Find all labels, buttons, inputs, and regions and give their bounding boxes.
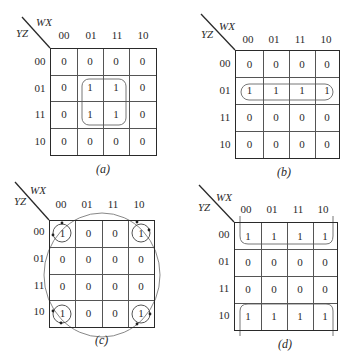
cell: 0 [263, 58, 289, 70]
cell: 0 [77, 55, 103, 67]
column-label: 10 [130, 198, 148, 210]
row-label: 01 [32, 82, 48, 94]
cell: 0 [313, 283, 337, 295]
row-variables-label: YZ [198, 201, 210, 213]
cell: 0 [50, 280, 75, 292]
caption: (a) [96, 162, 110, 177]
row-label: 10 [216, 309, 232, 321]
row-label: 11 [216, 282, 232, 294]
kmap-d: WX YZ 00 01 11 10 00 01 11 10 1 1 1 1 0 … [176, 178, 352, 357]
column-variables-label: WX [36, 16, 52, 28]
cell: 0 [50, 253, 75, 265]
cell: 1 [235, 310, 261, 322]
column-label: 00 [239, 33, 257, 45]
cell: 0 [263, 138, 289, 150]
cell: 0 [128, 253, 154, 265]
row-label: 01 [217, 84, 233, 96]
row-label: 00 [217, 57, 233, 69]
cell: 1 [287, 230, 313, 242]
cell: 1 [263, 84, 289, 96]
column-label: 01 [265, 33, 283, 45]
cell: 0 [75, 280, 102, 292]
row-label: 10 [32, 135, 48, 147]
cell: 0 [313, 256, 337, 268]
kmap-grid: 1 0 0 1 0 0 0 0 0 0 0 0 1 0 0 1 [49, 220, 155, 328]
row-label: 11 [32, 108, 48, 120]
column-label: 01 [78, 198, 96, 210]
cell: 0 [289, 111, 315, 123]
cell: 1 [128, 227, 154, 239]
cell: 0 [129, 81, 156, 93]
cell: 1 [287, 310, 313, 322]
cell: 0 [75, 253, 102, 265]
row-label: 11 [217, 111, 233, 123]
kmap-b: WX YZ 00 01 11 10 00 01 11 10 0 0 0 0 1 … [176, 0, 352, 178]
cell: 0 [51, 55, 77, 67]
cell: 1 [77, 108, 103, 120]
row-label: 10 [217, 138, 233, 150]
cell: 1 [315, 84, 339, 96]
cell: 0 [51, 135, 77, 147]
column-label: 01 [82, 29, 100, 41]
caption: (d) [278, 337, 292, 352]
cell: 0 [236, 138, 263, 150]
cell: 0 [236, 58, 263, 70]
cell: 0 [129, 108, 156, 120]
cell: 0 [235, 283, 261, 295]
column-variables-label: WX [219, 20, 235, 32]
cell: 0 [263, 111, 289, 123]
cell: 0 [315, 58, 339, 70]
cell: 0 [287, 256, 313, 268]
cell: 0 [289, 138, 315, 150]
caption: (c) [95, 333, 108, 348]
row-label: 00 [31, 225, 47, 237]
kmap-grid: 1 1 1 1 0 0 0 0 0 0 0 0 1 1 1 1 [234, 222, 338, 331]
row-label: 01 [31, 252, 47, 264]
cell: 0 [315, 111, 339, 123]
cell: 0 [235, 256, 261, 268]
cell: 1 [103, 108, 129, 120]
cell: 1 [236, 84, 263, 96]
row-label: 00 [32, 55, 48, 67]
cell: 0 [261, 256, 287, 268]
cell: 1 [77, 81, 103, 93]
cell: 1 [50, 227, 75, 239]
column-label: 10 [317, 33, 335, 45]
cell: 0 [102, 307, 128, 319]
column-label: 10 [314, 203, 332, 215]
cell: 0 [289, 58, 315, 70]
row-label: 11 [31, 279, 47, 291]
cell: 0 [129, 135, 156, 147]
cell: 0 [287, 283, 313, 295]
cell: 0 [103, 135, 129, 147]
cell: 0 [128, 280, 154, 292]
cell: 0 [103, 55, 129, 67]
cell: 1 [313, 310, 337, 322]
row-variables-label: YZ [16, 27, 28, 39]
cell: 0 [261, 283, 287, 295]
column-label: 10 [134, 29, 152, 41]
row-label: 00 [216, 228, 232, 240]
cell: 1 [235, 230, 261, 242]
column-variables-label: WX [216, 191, 232, 203]
cell: 0 [51, 108, 77, 120]
column-label: 11 [289, 203, 307, 215]
cell: 0 [102, 227, 128, 239]
cell: 0 [129, 55, 156, 67]
row-label: 10 [31, 305, 47, 317]
column-label: 01 [263, 203, 281, 215]
kmap-a: WX YZ 00 01 11 10 00 01 11 10 0 0 0 0 0 … [0, 0, 176, 178]
column-label: 00 [52, 198, 70, 210]
column-label: 00 [55, 29, 73, 41]
cell: 1 [128, 307, 154, 319]
cell: 1 [50, 307, 75, 319]
cell: 1 [261, 230, 287, 242]
cell: 1 [289, 84, 315, 96]
cell: 1 [261, 310, 287, 322]
column-label: 11 [291, 33, 309, 45]
row-variables-label: YZ [14, 195, 26, 207]
column-label: 00 [237, 203, 255, 215]
cell: 1 [313, 230, 337, 242]
cell: 0 [315, 138, 339, 150]
cell: 0 [77, 135, 103, 147]
